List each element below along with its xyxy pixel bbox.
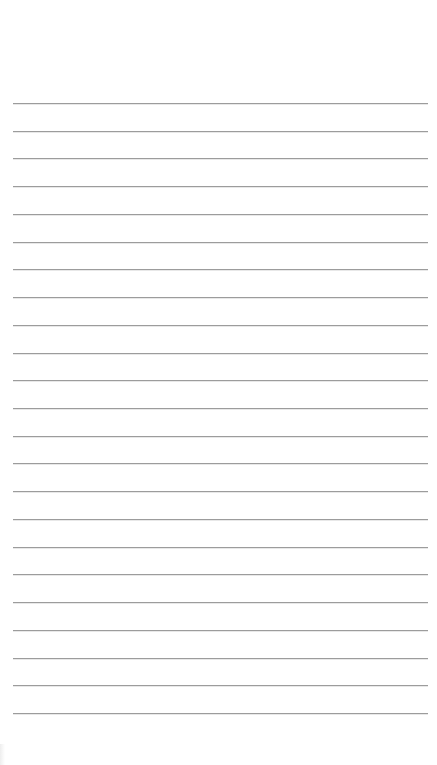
ruled-line: [13, 380, 428, 381]
ruled-line: [13, 297, 428, 298]
ruled-line: [13, 103, 428, 104]
ruled-line: [13, 325, 428, 326]
ruled-line: [13, 158, 428, 159]
ruled-line: [13, 269, 428, 270]
ruled-line: [13, 242, 428, 243]
ruled-line: [13, 685, 428, 686]
ruled-line: [13, 214, 428, 215]
ruled-line: [13, 658, 428, 659]
ruled-line: [13, 713, 428, 714]
ruled-line: [13, 491, 428, 492]
ruled-line: [13, 408, 428, 409]
corner-shadow-mark: [0, 744, 5, 765]
ruled-line: [13, 547, 428, 548]
ruled-line: [13, 630, 428, 631]
ruled-line: [13, 519, 428, 520]
ruled-line: [13, 353, 428, 354]
ruled-line: [13, 186, 428, 187]
ruled-line: [13, 131, 428, 132]
ruled-line: [13, 463, 428, 464]
ruled-line: [13, 574, 428, 575]
ruled-line: [13, 436, 428, 437]
ruled-line: [13, 602, 428, 603]
lined-paper-sheet: [0, 0, 437, 765]
